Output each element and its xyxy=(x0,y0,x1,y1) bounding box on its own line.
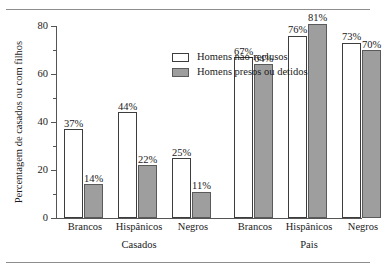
bar: 81% xyxy=(308,24,327,218)
bar: 73% xyxy=(342,43,361,218)
bar-cluster: 44%22% xyxy=(118,26,160,218)
y-tick-label: 80 xyxy=(38,21,49,32)
y-tick-label: 40 xyxy=(38,117,49,128)
bar-value-label: 70% xyxy=(362,40,381,51)
x-supergroup-label: Pais xyxy=(249,240,369,251)
bar: 64% xyxy=(254,64,273,218)
bar-value-label: 44% xyxy=(118,102,137,113)
bar-value-label: 25% xyxy=(172,148,191,159)
legend-swatch-incarcerated xyxy=(172,68,189,77)
plot-area: Percentagem de casados ou com filhos 020… xyxy=(56,26,362,218)
bar-value-label: 76% xyxy=(288,25,307,36)
y-tick-label: 60 xyxy=(38,69,49,80)
bar-value-label: 37% xyxy=(64,119,83,130)
legend-label: Homens não-reclusos xyxy=(197,52,288,63)
y-tick-minor xyxy=(53,98,56,99)
y-tick xyxy=(51,74,56,75)
bar: 67% xyxy=(234,57,253,218)
bar: 44% xyxy=(118,112,137,218)
x-axis xyxy=(56,218,362,219)
y-tick xyxy=(51,122,56,123)
y-tick-minor xyxy=(53,194,56,195)
legend-item: Homens não-reclusos xyxy=(172,50,308,65)
y-axis-title: Percentagem de casados ou com filhos xyxy=(12,26,26,218)
legend: Homens não-reclusos Homens presos ou det… xyxy=(172,50,308,80)
bar-value-label: 73% xyxy=(342,32,361,43)
bar-value-label: 14% xyxy=(84,174,103,185)
y-tick xyxy=(51,218,56,219)
bar: 70% xyxy=(362,50,381,218)
bar-value-label: 22% xyxy=(138,155,157,166)
y-tick-label: 20 xyxy=(38,165,49,176)
figure-rule-bottom xyxy=(6,262,370,263)
bar: 14% xyxy=(84,184,103,218)
bar: 22% xyxy=(138,165,157,218)
y-tick-minor xyxy=(53,146,56,147)
legend-item: Homens presos ou detidos xyxy=(172,65,308,80)
x-category-label: Negros xyxy=(323,222,386,233)
bar: 11% xyxy=(192,192,211,218)
x-supergroup-label: Casados xyxy=(79,240,199,251)
figure-rule-top xyxy=(6,9,370,10)
legend-swatch-non-incarcerated xyxy=(172,53,189,62)
y-tick xyxy=(51,26,56,27)
bar-cluster: 37%14% xyxy=(64,26,106,218)
bar: 25% xyxy=(172,158,191,218)
bar-value-label: 11% xyxy=(192,181,211,192)
y-tick xyxy=(51,170,56,171)
bar-cluster: 73%70% xyxy=(342,26,384,218)
legend-label: Homens presos ou detidos xyxy=(197,67,308,78)
bar-value-label: 81% xyxy=(308,13,327,24)
y-tick-minor xyxy=(53,50,56,51)
bar: 37% xyxy=(64,129,83,218)
